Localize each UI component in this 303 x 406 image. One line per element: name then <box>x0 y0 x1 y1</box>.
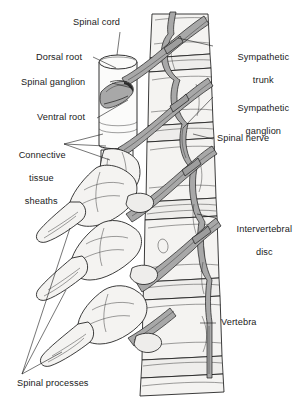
label-intervertebral-disc: Intervertebral disc <box>216 212 302 270</box>
label-vertebra: Vertebra <box>221 317 257 329</box>
label-ventral-root: Ventral root <box>37 112 85 124</box>
label-intervertebral-disc-line2: disc <box>256 247 273 257</box>
label-spinal-cord: Spinal cord <box>73 17 120 29</box>
label-spinal-nerve: Spinal nerve <box>217 133 269 145</box>
label-sympathetic-ganglion-line1: Sympathetic <box>237 103 289 113</box>
leader-spinal-cord <box>117 32 120 55</box>
label-sympathetic-trunk-line1: Sympathetic <box>237 52 289 62</box>
label-cts-line2: tissue <box>29 173 54 183</box>
label-sympathetic-trunk: Sympathetic trunk <box>216 40 300 98</box>
label-sympathetic-trunk-line2: trunk <box>253 75 274 85</box>
label-spinal-ganglion: Spinal ganglion <box>21 77 85 89</box>
label-spinal-processes: Spinal processes <box>17 378 89 390</box>
label-cts-line3: sheaths <box>25 196 58 206</box>
label-intervertebral-disc-line1: Intervertebral <box>237 224 293 234</box>
leader-cts-1 <box>64 134 103 144</box>
label-dorsal-root: Dorsal root <box>36 52 82 64</box>
label-connective-tissue-sheaths: Connective tissue sheaths <box>8 138 64 219</box>
anatomy-figure: .ln { fill:none; stroke:#1a1a1a; stroke-… <box>0 0 303 406</box>
label-cts-line1: Connective <box>19 150 66 160</box>
